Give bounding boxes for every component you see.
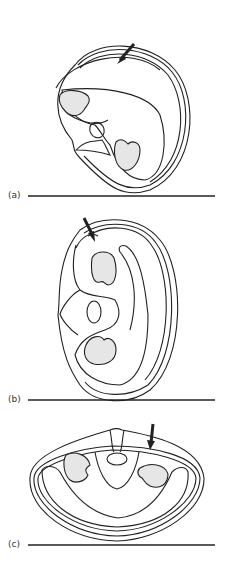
panel-b-label: (b)	[8, 394, 21, 404]
panel-a-label: (a)	[8, 190, 21, 200]
panel-b-figure	[58, 218, 178, 401]
diagram-canvas	[0, 0, 232, 565]
panel-c-label: (c)	[8, 539, 20, 549]
panel-a-figure	[56, 44, 190, 193]
panel-c-figure	[30, 424, 204, 541]
